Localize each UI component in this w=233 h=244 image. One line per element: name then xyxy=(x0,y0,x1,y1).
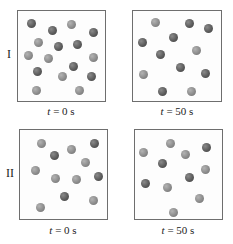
light-molecule-icon xyxy=(192,46,201,55)
dark-molecule-icon xyxy=(89,28,98,37)
light-molecule-icon xyxy=(181,150,190,159)
time-value: = 0 s xyxy=(52,224,76,236)
dark-molecule-icon xyxy=(90,139,99,148)
dark-molecule-icon xyxy=(176,63,185,72)
light-molecule-icon xyxy=(67,20,76,29)
dark-molecule-icon xyxy=(169,33,178,42)
dark-molecule-icon xyxy=(87,72,96,81)
dark-molecule-icon xyxy=(27,19,36,28)
dark-molecule-icon xyxy=(94,172,103,181)
light-molecule-icon xyxy=(67,145,76,154)
time-value: = 50 s xyxy=(164,105,194,117)
dark-molecule-icon xyxy=(138,38,147,47)
dark-molecule-icon xyxy=(54,42,63,51)
time-label-II-t50: t = 50 s xyxy=(133,224,223,236)
light-molecule-icon xyxy=(151,18,160,27)
light-molecule-icon xyxy=(187,87,196,96)
time-label-I-t50: t = 50 s xyxy=(132,105,222,117)
light-molecule-icon xyxy=(169,208,178,217)
light-molecule-icon xyxy=(166,139,175,148)
dark-molecule-icon xyxy=(201,69,210,78)
dark-molecule-icon xyxy=(185,173,194,182)
dark-molecule-icon xyxy=(48,26,57,35)
light-molecule-icon xyxy=(37,139,46,148)
dark-molecule-icon xyxy=(158,159,167,168)
dark-molecule-icon xyxy=(69,62,78,71)
light-molecule-icon xyxy=(24,51,33,60)
dark-molecule-icon xyxy=(50,151,59,160)
light-molecule-icon xyxy=(44,54,53,63)
dark-molecule-icon xyxy=(73,40,82,49)
light-molecule-icon xyxy=(31,166,40,175)
time-label-I-t0: t = 0 s xyxy=(16,105,106,117)
time-value: = 50 s xyxy=(165,224,195,236)
dark-molecule-icon xyxy=(33,67,42,76)
dark-molecule-icon xyxy=(156,50,165,59)
light-molecule-icon xyxy=(163,183,172,192)
light-molecule-icon xyxy=(81,158,90,167)
dark-molecule-icon xyxy=(60,192,69,201)
time-value: = 0 s xyxy=(50,105,74,117)
light-molecule-icon xyxy=(34,38,43,47)
light-molecule-icon xyxy=(32,86,41,95)
row-label-I: I xyxy=(2,47,16,62)
light-molecule-icon xyxy=(36,203,45,212)
light-molecule-icon xyxy=(75,86,84,95)
light-molecule-icon xyxy=(201,165,210,174)
dark-molecule-icon xyxy=(185,19,194,28)
panel-II-t50 xyxy=(134,129,223,220)
light-molecule-icon xyxy=(58,72,67,81)
light-molecule-icon xyxy=(89,196,98,205)
dark-molecule-icon xyxy=(204,24,213,33)
row-label-II: II xyxy=(3,166,17,181)
light-molecule-icon xyxy=(139,148,148,157)
dark-molecule-icon xyxy=(202,143,211,152)
light-molecule-icon xyxy=(89,53,98,62)
dark-molecule-icon xyxy=(158,87,167,96)
light-molecule-icon xyxy=(139,70,148,79)
light-molecule-icon xyxy=(72,175,81,184)
light-molecule-icon xyxy=(195,194,204,203)
time-label-II-t0: t = 0 s xyxy=(18,224,108,236)
light-molecule-icon xyxy=(51,174,60,183)
dark-molecule-icon xyxy=(141,179,150,188)
